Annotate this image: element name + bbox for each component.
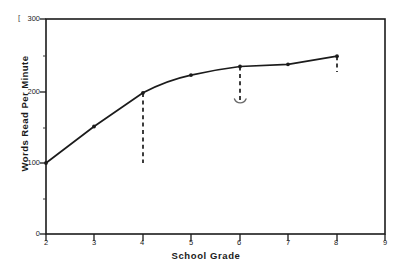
data-point-grade-5 [189, 73, 193, 77]
plot-frame-rect [46, 19, 385, 234]
chart-figure: Words Read Per Minute School Grade [ 300… [0, 0, 405, 270]
plot-frame [46, 19, 385, 234]
x-axis-ticks [46, 234, 385, 241]
annotation-dashed-lines [143, 56, 337, 163]
data-point-grade-3 [92, 125, 96, 129]
chart-canvas [0, 0, 405, 270]
y-axis-ticks [40, 19, 46, 234]
data-series-line [46, 56, 337, 163]
data-point-grade-7 [286, 62, 290, 66]
data-point-grade-2 [44, 161, 48, 165]
data-point-markers [44, 54, 339, 165]
